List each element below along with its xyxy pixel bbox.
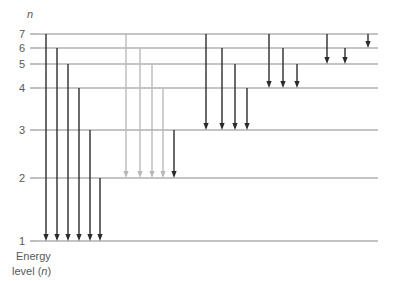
level-label-2: 2 [19, 172, 25, 184]
level-label-5: 5 [19, 58, 25, 70]
transition-arrowhead-4-to-3 [244, 123, 249, 130]
axis-header-n: n [27, 8, 33, 20]
level-label-1: 1 [19, 235, 25, 247]
caption-text-post: ) [47, 265, 51, 277]
caption-text-pre: level ( [12, 265, 42, 277]
transition-arrowhead-6-to-4 [280, 81, 285, 88]
transition-arrowhead-6-to-3 [219, 123, 224, 130]
level-label-7: 7 [19, 28, 25, 40]
axis-caption-line2: level (n) [12, 265, 51, 277]
transition-arrowhead-7-to-3 [203, 123, 208, 130]
transition-arrowhead-4-to-1 [76, 234, 81, 241]
transition-arrowhead-6-to-2 [137, 171, 142, 178]
level-lines-group [38, 34, 378, 241]
transition-arrowhead-3-to-2 [171, 171, 176, 178]
transition-arrowhead-5-to-2 [149, 171, 154, 178]
transition-arrowhead-7-to-2 [123, 171, 128, 178]
level-labels-group: 7654321 [19, 28, 25, 247]
level-ticks-group [30, 34, 38, 241]
transition-arrows-group [43, 34, 370, 241]
axis-caption-line1: Energy [16, 250, 51, 262]
transition-arrowhead-5-to-4 [294, 81, 299, 88]
transition-arrowhead-6-to-1 [54, 234, 59, 241]
transition-arrowhead-5-to-3 [232, 123, 237, 130]
transition-arrowhead-7-to-4 [266, 81, 271, 88]
transition-arrowhead-5-to-1 [65, 234, 70, 241]
level-label-3: 3 [19, 124, 25, 136]
transition-arrowhead-6-to-5 [342, 57, 347, 64]
transition-arrowhead-2-to-1 [97, 234, 102, 241]
transition-arrowhead-4-to-2 [160, 171, 165, 178]
level-label-6: 6 [19, 42, 25, 54]
energy-level-diagram: 7654321 n Energy level (n) [0, 0, 393, 281]
transition-arrowhead-3-to-1 [87, 234, 92, 241]
transition-arrowhead-7-to-5 [324, 57, 329, 64]
transition-arrowhead-7-to-6 [365, 41, 370, 48]
transition-arrowhead-7-to-1 [43, 234, 48, 241]
energy-level-svg: 7654321 n Energy level (n) [0, 0, 393, 281]
level-label-4: 4 [19, 82, 25, 94]
